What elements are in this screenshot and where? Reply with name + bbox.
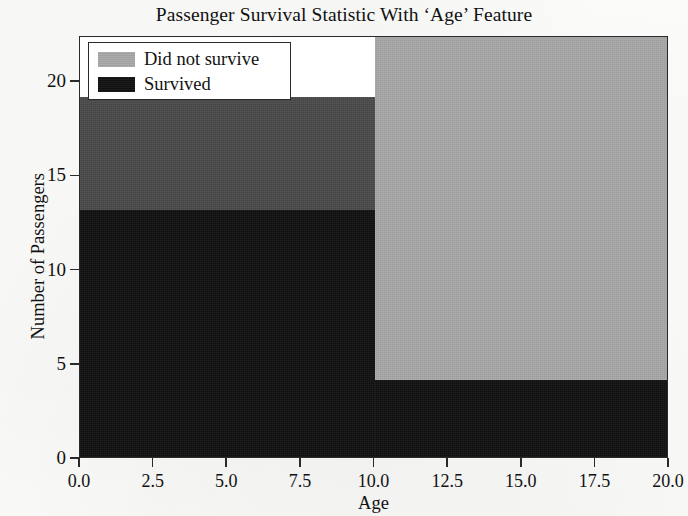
y-axis-title: Number of Passengers bbox=[29, 126, 48, 386]
chart-title: Passenger Survival Statistic With ‘Age’ … bbox=[0, 4, 688, 26]
x-tick-mark bbox=[594, 458, 596, 467]
x-tick-mark bbox=[225, 458, 227, 467]
legend-swatch-survived bbox=[98, 77, 135, 92]
x-tick-mark bbox=[373, 458, 375, 467]
x-tick-label: 17.5 bbox=[554, 472, 634, 490]
x-tick-label: 5.0 bbox=[186, 472, 266, 490]
chart-legend: Did not survive Survived bbox=[88, 42, 291, 100]
legend-swatch-did-not-survive bbox=[98, 52, 135, 67]
bar-survived-0-10 bbox=[80, 210, 375, 458]
y-tick-mark bbox=[70, 363, 79, 365]
x-tick-label: 2.5 bbox=[113, 472, 193, 490]
y-tick-label: 5 bbox=[57, 354, 67, 373]
y-tick-label: 10 bbox=[47, 260, 66, 279]
y-tick-mark bbox=[70, 175, 79, 177]
bar-did-not-survive-10-20 bbox=[375, 37, 669, 380]
bar-did-not-survive-0-10 bbox=[80, 97, 375, 210]
x-tick-label: 0.0 bbox=[39, 472, 119, 490]
x-tick-label: 15.0 bbox=[481, 472, 561, 490]
legend-label-did-not-survive: Did not survive bbox=[144, 50, 259, 69]
x-tick-mark bbox=[78, 458, 80, 467]
legend-label-survived: Survived bbox=[144, 75, 211, 94]
x-axis-title: Age bbox=[79, 494, 668, 513]
y-tick-label: 15 bbox=[47, 165, 66, 184]
y-tick-label: 0 bbox=[57, 448, 67, 467]
x-tick-label: 10.0 bbox=[334, 472, 414, 490]
x-tick-mark bbox=[299, 458, 301, 467]
bar-survived-10-20 bbox=[375, 380, 669, 458]
x-tick-mark bbox=[446, 458, 448, 467]
plot-bars-container bbox=[80, 37, 667, 457]
y-tick-label: 20 bbox=[47, 71, 66, 90]
x-tick-label: 12.5 bbox=[407, 472, 487, 490]
x-tick-label: 20.0 bbox=[628, 472, 688, 490]
y-tick-mark bbox=[70, 269, 79, 271]
x-tick-label: 7.5 bbox=[260, 472, 340, 490]
x-tick-mark bbox=[520, 458, 522, 467]
chart-page: Passenger Survival Statistic With ‘Age’ … bbox=[0, 0, 688, 516]
legend-item-did-not-survive[interactable]: Did not survive bbox=[98, 47, 282, 72]
x-tick-mark bbox=[667, 458, 669, 467]
x-tick-mark bbox=[152, 458, 154, 467]
y-tick-mark bbox=[70, 80, 79, 82]
legend-item-survived[interactable]: Survived bbox=[98, 72, 282, 97]
